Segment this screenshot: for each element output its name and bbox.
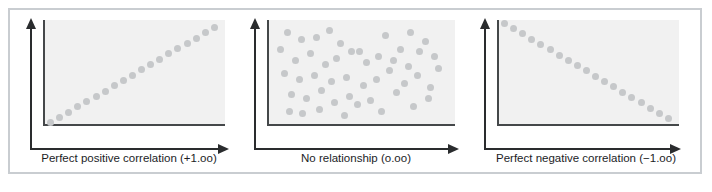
scatter-point [656, 110, 663, 117]
scatter-point [316, 106, 323, 113]
scatter-point [583, 67, 590, 74]
scatter-point [367, 97, 374, 104]
scatter-point [427, 84, 434, 91]
scatter-point [610, 83, 617, 90]
scatter-point [574, 62, 581, 69]
scatter-point [647, 105, 654, 112]
scatter-point [328, 78, 335, 85]
scatter-point [307, 50, 314, 57]
scatter-point [386, 67, 393, 74]
scatter-point [65, 109, 72, 116]
scatter-point [519, 30, 526, 37]
scatter-point [93, 93, 100, 100]
scatter-point [202, 29, 209, 36]
scatter-point [322, 61, 329, 68]
x-axis-line [30, 148, 220, 150]
scatter-point [393, 89, 400, 96]
panel-caption: No relationship (o.oo) [242, 152, 470, 164]
scatter-point [397, 46, 404, 53]
y-axis-line [30, 28, 32, 150]
negative-correlation-panel: Perfect negative correlation (−1.oo) [472, 0, 700, 166]
scatter-point [565, 57, 572, 64]
scatter-point [326, 27, 333, 34]
scatter-point [547, 46, 554, 53]
scatter-point [277, 46, 284, 53]
scatter-point [288, 91, 295, 98]
plot-area [43, 20, 225, 126]
scatter-point [407, 29, 414, 36]
scatter-point [311, 72, 318, 79]
scatter-point [556, 52, 563, 59]
x-axis-line [484, 148, 672, 150]
scatter-point [120, 77, 127, 84]
scatter-point [628, 94, 635, 101]
y-axis-line [254, 28, 256, 150]
scatter-point [165, 50, 172, 57]
scatter-point [665, 115, 672, 122]
scatter-point [382, 32, 389, 39]
scatter-point [193, 35, 200, 42]
scatter-point [343, 74, 350, 81]
plot-area [497, 20, 679, 126]
scatter-point [410, 103, 417, 110]
scatter-point [375, 53, 382, 60]
scatter-point [378, 108, 385, 115]
scatter-point [363, 59, 370, 66]
scatter-point [360, 82, 367, 89]
scatter-point [401, 80, 408, 87]
x-axis-line [254, 148, 450, 150]
scatter-point [354, 101, 361, 108]
scatter-point [601, 78, 608, 85]
scatter-point [422, 38, 429, 45]
scatter-point [286, 108, 293, 115]
scatter-point [435, 65, 442, 72]
scatter-point [184, 40, 191, 47]
scatter-point [47, 119, 54, 126]
scatter-point [425, 95, 432, 102]
scatter-point [501, 20, 508, 27]
scatter-point [341, 112, 348, 119]
correlation-figure: Perfect positive correlation (+1.oo) No … [0, 0, 712, 192]
plot-area [267, 20, 455, 126]
scatter-point [298, 36, 305, 43]
scatter-point [292, 57, 299, 64]
scatter-point [296, 76, 303, 83]
scatter-point [528, 36, 535, 43]
scatter-point [333, 55, 340, 62]
scatter-point [147, 61, 154, 68]
scatter-point [619, 89, 626, 96]
scatter-point [174, 45, 181, 52]
scatter-point [318, 87, 325, 94]
scatter-point [138, 66, 145, 73]
scatter-point [537, 41, 544, 48]
scatter-point [337, 40, 344, 47]
scatter-point [102, 88, 109, 95]
scatter-point [638, 99, 645, 106]
scatter-point [211, 24, 218, 31]
scatter-point [348, 48, 355, 55]
scatter-point [74, 103, 81, 110]
scatter-point [416, 48, 423, 55]
scatter-point [373, 76, 380, 83]
scatter-point [431, 53, 438, 60]
no-relationship-panel: No relationship (o.oo) [242, 0, 470, 166]
scatter-point [111, 82, 118, 89]
scatter-point [510, 25, 517, 32]
scatter-point [129, 72, 136, 79]
scatter-point [56, 114, 63, 121]
scatter-point [313, 34, 320, 41]
scatter-point [356, 48, 363, 55]
scatter-point [83, 98, 90, 105]
positive-correlation-panel: Perfect positive correlation (+1.oo) [18, 0, 240, 166]
scatter-point [156, 56, 163, 63]
scatter-point [284, 29, 291, 36]
scatter-point [592, 73, 599, 80]
scatter-point [299, 110, 306, 117]
panel-caption: Perfect negative correlation (−1.oo) [472, 152, 700, 164]
scatter-point [390, 57, 397, 64]
scatter-point [405, 63, 412, 70]
scatter-point [414, 72, 421, 79]
scatter-point [331, 99, 338, 106]
y-axis-line [484, 28, 486, 150]
scatter-point [303, 95, 310, 102]
